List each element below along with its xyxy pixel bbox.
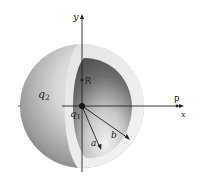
cutaway-group [65,44,160,170]
charge-q1-subscript: 1 [76,113,80,121]
radius-b-label: b [111,130,117,140]
diagram: y x R P a b q1 q2 [0,0,198,184]
point-R-label: R [85,76,91,86]
point-P-marker [176,105,179,108]
y-axis-arrowhead [80,14,84,19]
charge-q1-marker [79,103,85,109]
point-P-label: P [174,95,180,105]
x-axis-label: x [181,110,186,119]
diagram-canvas: y x R P a b q1 q2 [0,0,198,184]
x-axis-arrowhead [179,104,184,108]
point-R-marker [80,78,83,81]
charge-q2-subscript: 2 [45,93,50,102]
charge-q2-symbol: q [38,88,45,101]
radius-a-label: a [91,138,96,148]
y-axis-label: y [72,11,79,22]
